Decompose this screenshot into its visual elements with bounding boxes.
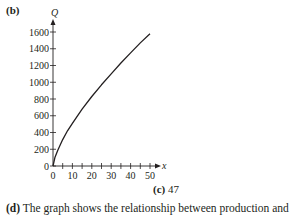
x-tick-label: 30 [106,170,116,181]
y-tick-label: 800 [34,94,49,105]
y-tick-label: 600 [34,110,49,121]
y-tick-label: 1000 [29,77,49,88]
chart: Qx02004006008001000120014001600010203040… [0,0,290,200]
x-tick-label: 0 [51,170,56,181]
x-axis-arrow-icon [155,164,161,169]
data-curve [53,34,150,166]
y-axis-label: Q [51,7,59,18]
y-tick-label: 400 [34,127,49,138]
y-tick-label: 200 [34,144,49,155]
y-tick-label: 1600 [29,27,49,38]
x-tick-label: 50 [145,170,155,181]
next-question-text: (d) The graph shows the relationship bet… [6,202,289,214]
y-axis-arrow-icon [51,19,56,25]
x-tick-label: 40 [126,170,136,181]
y-tick-label: 1400 [29,43,49,54]
caption-value: 47 [168,183,179,195]
next-question-label: (d) [6,202,20,214]
next-question-body: The graph shows the relationship between… [23,202,289,214]
x-tick-label: 10 [67,170,77,181]
y-tick-label: 1200 [29,60,49,71]
y-tick-label: 0 [44,161,49,172]
x-axis-label: x [161,160,167,171]
x-tick-label: 20 [87,170,97,181]
caption: (c) 47 [153,183,179,195]
caption-label: (c) [153,183,165,195]
